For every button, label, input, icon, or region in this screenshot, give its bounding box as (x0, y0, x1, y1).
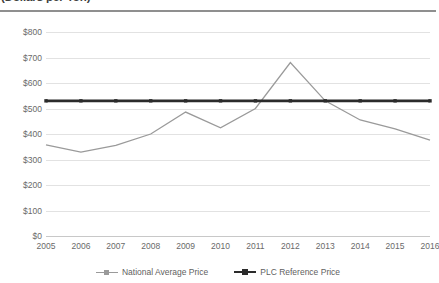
series-marker (289, 99, 292, 102)
y-axis-tick-label: $800 (2, 27, 42, 37)
legend-label: National Average Price (122, 267, 208, 277)
series-marker (184, 99, 187, 102)
x-axis-tick-label: 2012 (281, 241, 300, 251)
y-axis-tick-label: $100 (2, 206, 42, 216)
title-divider (0, 10, 436, 12)
y-axis-tick-label: $300 (2, 155, 42, 165)
x-axis-tick-label: 2010 (211, 241, 230, 251)
legend-swatch-icon (234, 268, 256, 277)
plot-area (46, 32, 430, 236)
legend-swatch-icon (96, 268, 118, 277)
y-axis-tick-label: $200 (2, 180, 42, 190)
y-axis-tick-label: $600 (2, 78, 42, 88)
x-axis-tick-label: 2011 (246, 241, 264, 251)
x-axis-tick-label: 2009 (176, 241, 195, 251)
y-axis-tick-label: $700 (2, 53, 42, 63)
chart-title: (Dollars per Ton) (1, 0, 90, 3)
legend-item[interactable]: PLC Reference Price (234, 267, 340, 277)
series-marker (219, 99, 222, 102)
y-axis-tick-label: $400 (2, 129, 42, 139)
x-axis-tick-label: 2013 (316, 241, 335, 251)
x-axis-tick-label: 2008 (141, 241, 160, 251)
legend-label: PLC Reference Price (260, 267, 340, 277)
x-axis-tick-label: 2006 (71, 241, 90, 251)
x-axis-tick-label: 2016 (421, 241, 439, 251)
x-axis-tick-label: 2005 (37, 241, 56, 251)
series-marker (358, 99, 361, 102)
chart-header: (Dollars per Ton) (0, 0, 436, 18)
series-marker (149, 99, 152, 102)
x-axis-line (46, 236, 430, 237)
series-marker (114, 99, 117, 102)
series-marker (254, 99, 257, 102)
series-marker (44, 99, 47, 102)
series-layer (46, 32, 430, 236)
legend-item[interactable]: National Average Price (96, 267, 208, 277)
chart-legend: National Average PricePLC Reference Pric… (0, 264, 436, 280)
x-axis-tick-label: 2014 (351, 241, 370, 251)
y-axis-tick-label: $500 (2, 104, 42, 114)
series-marker (393, 99, 396, 102)
y-axis-tick-label: $0 (2, 231, 42, 241)
y-axis-labels: $0$100$200$300$400$500$600$700$800 (0, 32, 42, 236)
x-axis-labels: 2005200620072008200920102011201220132014… (46, 241, 430, 255)
series-line (46, 63, 430, 153)
x-axis-tick-label: 2015 (386, 241, 405, 251)
x-axis-tick-label: 2007 (106, 241, 125, 251)
series-marker (79, 99, 82, 102)
series-marker (324, 99, 327, 102)
series-marker (428, 99, 431, 102)
